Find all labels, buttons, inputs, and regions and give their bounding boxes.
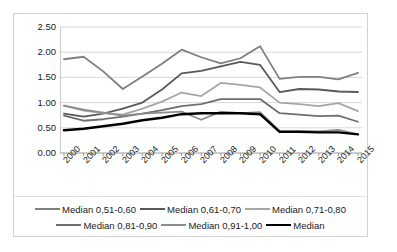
- y-tick-label: 1.00: [38, 98, 57, 108]
- legend-item[interactable]: Median 0,61-0,70: [140, 204, 241, 215]
- legend-label: Median 0,61-0,70: [167, 204, 241, 215]
- y-tick-label: 0.50: [38, 123, 57, 133]
- legend-label: Median 0,81-0,90: [83, 220, 157, 231]
- legend-color-swatch: [140, 208, 165, 210]
- x-axis: 2000200120022003200420052006200720082009…: [60, 154, 362, 202]
- y-tick-label: 2.50: [38, 22, 57, 32]
- legend-label: Median 0,51-0,60: [62, 204, 136, 215]
- chart-plot-svg: [60, 14, 362, 156]
- legend-color-swatch: [56, 224, 81, 226]
- y-axis: 0.000.501.001.502.002.50: [14, 14, 58, 159]
- legend-row: Median 0,51-0,60Median 0,61-0,70Median 0…: [14, 201, 367, 217]
- legend-item[interactable]: Median: [266, 220, 324, 231]
- legend-label: Median: [293, 220, 324, 231]
- legend-label: Median 0,71-0,80: [272, 204, 346, 215]
- legend-item[interactable]: Median 0,81-0,90: [56, 220, 157, 231]
- legend-label: Median 0,91-1,00: [188, 220, 262, 231]
- y-tick-label: 2.00: [38, 47, 57, 57]
- legend-color-swatch: [35, 208, 60, 210]
- series-line: [64, 83, 358, 115]
- legend-color-swatch: [245, 208, 270, 210]
- series-line: [64, 106, 358, 135]
- legend-item[interactable]: Median 0,51-0,60: [35, 204, 136, 215]
- legend-item[interactable]: Median 0,71-0,80: [245, 204, 346, 215]
- plot-area: 0.000.501.001.502.002.50: [14, 14, 369, 159]
- legend-row: Median 0,81-0,90Median 0,91-1,00Median: [14, 217, 367, 233]
- legend-color-swatch: [161, 224, 186, 226]
- legend-color-swatch: [266, 224, 291, 226]
- y-tick-label: 0.00: [38, 148, 57, 158]
- chart-legend: Median 0,51-0,60Median 0,61-0,70Median 0…: [14, 196, 367, 236]
- y-tick-label: 1.50: [38, 72, 57, 82]
- legend-item[interactable]: Median 0,91-1,00: [161, 220, 262, 231]
- chart-container: 0.000.501.001.502.002.50 200020012002200…: [13, 13, 368, 237]
